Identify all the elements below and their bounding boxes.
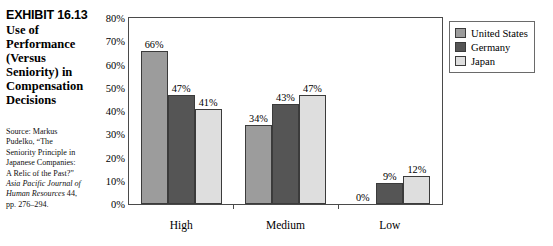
y-axis-tick-label: 60% bbox=[95, 59, 125, 70]
plot-area: 66%47%41%34%43%47%0%9%12% bbox=[128, 17, 443, 205]
source-line: A Relic of the Past?” bbox=[6, 169, 100, 179]
bar bbox=[403, 176, 430, 204]
y-axis-tick-label: 40% bbox=[95, 106, 125, 117]
legend-label: Germany bbox=[471, 42, 510, 53]
legend-label: Japan bbox=[471, 56, 495, 67]
bar-value-label: 9% bbox=[383, 171, 397, 182]
exhibit-title-line: (Versus bbox=[6, 51, 102, 65]
legend-item: Germany bbox=[455, 40, 528, 54]
bar bbox=[195, 109, 222, 204]
bar bbox=[272, 104, 299, 204]
y-axis-tick-label: 10% bbox=[95, 175, 125, 186]
exhibit-title-line: Performance bbox=[6, 37, 102, 51]
exhibit-title-line: Use of bbox=[6, 23, 102, 37]
bar-value-label: 47% bbox=[172, 83, 191, 94]
bar bbox=[245, 125, 272, 204]
chart-legend: United StatesGermanyJapan bbox=[449, 21, 535, 73]
source-line: Pudelko, “The bbox=[6, 137, 100, 147]
bars-layer: 66%47%41%34%43%47%0%9%12% bbox=[129, 18, 442, 204]
bar bbox=[141, 51, 168, 204]
source-line-journal: Asia Pacific Journal of bbox=[6, 179, 100, 189]
y-axis-tick-label: 0% bbox=[95, 199, 125, 210]
source-journal-name: Human Resources bbox=[6, 189, 65, 198]
legend-swatch-icon bbox=[455, 28, 466, 38]
source-line: Source: Markus bbox=[6, 127, 100, 137]
x-axis: HighMediumLow bbox=[128, 205, 443, 235]
legend-label: United States bbox=[471, 28, 528, 39]
source-citation: Source: Markus Pudelko, “The Seniority P… bbox=[6, 127, 100, 210]
bar-value-label: 47% bbox=[303, 83, 322, 94]
legend-swatch-icon bbox=[455, 56, 466, 66]
legend-item: United States bbox=[455, 26, 528, 40]
y-axis-tick-label: 80% bbox=[95, 13, 125, 24]
exhibit-caption: EXHIBIT 16.13 Use of Performance (Versus… bbox=[6, 8, 102, 108]
exhibit-number: EXHIBIT 16.13 bbox=[6, 8, 102, 22]
legend-swatch-icon bbox=[455, 42, 466, 52]
bar-value-label: 34% bbox=[249, 113, 268, 124]
x-axis-category-label: Medium bbox=[266, 219, 305, 231]
y-axis-tick-label: 50% bbox=[95, 82, 125, 93]
y-axis-tick-label: 30% bbox=[95, 129, 125, 140]
source-line-journal-volume: Human Resources 44, bbox=[6, 189, 100, 199]
bar bbox=[376, 183, 403, 204]
exhibit-title-line: Seniority) in bbox=[6, 65, 102, 79]
legend-item: Japan bbox=[455, 54, 528, 68]
bar bbox=[299, 95, 326, 204]
bars-container: 66%47%41%34%43%47%0%9%12% bbox=[129, 18, 442, 204]
bar-value-label: 0% bbox=[356, 192, 370, 203]
x-axis-category-label: High bbox=[170, 219, 193, 231]
y-axis: 0%10%20%30%40%50%60%70%80% bbox=[92, 17, 125, 205]
exhibit-title: Use of Performance (Versus Seniority) in… bbox=[6, 23, 102, 108]
exhibit-title-line: Decisions bbox=[6, 93, 102, 107]
y-axis-tick-label: 20% bbox=[95, 152, 125, 163]
source-volume: 44, bbox=[65, 189, 77, 198]
bar-value-label: 66% bbox=[145, 39, 164, 50]
y-axis-tick-label: 70% bbox=[95, 36, 125, 47]
exhibit-title-line: Compensation bbox=[6, 79, 102, 93]
bar-value-label: 43% bbox=[276, 92, 295, 103]
bar-value-label: 41% bbox=[199, 97, 218, 108]
source-line: pp. 276–294. bbox=[6, 200, 100, 210]
source-line: Japanese Companies: bbox=[6, 158, 100, 168]
bar-value-label: 12% bbox=[407, 164, 426, 175]
source-line: Seniority Principle in bbox=[6, 148, 100, 158]
x-axis-category-label: Low bbox=[379, 219, 400, 231]
exhibit-figure: EXHIBIT 16.13 Use of Performance (Versus… bbox=[0, 0, 553, 246]
bar bbox=[168, 95, 195, 204]
